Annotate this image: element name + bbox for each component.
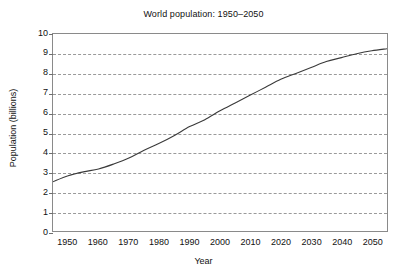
series-path bbox=[53, 49, 387, 182]
chart-container: World population: 1950–2050 109876543210… bbox=[0, 0, 407, 277]
y-axis-tick-label: 0 bbox=[22, 228, 48, 237]
x-axis-tick-labels: 1950196019701980199020002010202020302040… bbox=[52, 238, 388, 252]
y-axis-tick-label: 5 bbox=[22, 128, 48, 137]
y-axis-tick-label: 8 bbox=[22, 68, 48, 77]
y-axis-tick bbox=[49, 233, 53, 234]
y-axis-tick-label: 6 bbox=[22, 108, 48, 117]
y-axis-tick-label: 9 bbox=[22, 48, 48, 57]
data-series-line bbox=[53, 34, 387, 231]
x-axis-title: Year bbox=[0, 256, 407, 266]
chart-title: World population: 1950–2050 bbox=[0, 9, 407, 19]
y-axis-tick-label: 3 bbox=[22, 168, 48, 177]
y-axis-tick-label: 10 bbox=[22, 29, 48, 38]
y-axis-tick-label: 7 bbox=[22, 88, 48, 97]
y-axis-tick-labels: 109876543210 bbox=[18, 33, 48, 232]
y-axis-title: Population (billions) bbox=[8, 53, 18, 203]
y-axis-tick-label: 4 bbox=[22, 148, 48, 157]
x-axis-tick-label: 2050 bbox=[353, 238, 393, 247]
y-axis-tick-label: 1 bbox=[22, 208, 48, 217]
y-axis-tick-label: 2 bbox=[22, 188, 48, 197]
plot-area bbox=[52, 33, 388, 232]
